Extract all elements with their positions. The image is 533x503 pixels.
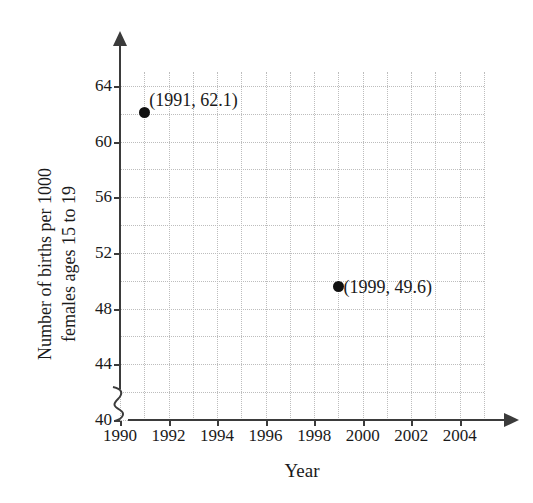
x-tick-label: 2004 — [430, 427, 490, 444]
gridline-horizontal — [120, 114, 484, 115]
gridline-vertical — [460, 72, 461, 420]
gridline-vertical — [484, 72, 485, 420]
gridline-vertical — [411, 72, 412, 420]
data-point-label: (1999, 49.6) — [343, 277, 432, 298]
x-tick-mark — [266, 421, 268, 426]
x-axis-title: Year — [120, 460, 484, 482]
gridline-horizontal — [120, 86, 484, 87]
gridline-vertical — [435, 72, 436, 420]
x-tick-mark — [314, 421, 316, 426]
x-tick-mark — [120, 421, 122, 426]
gridline-horizontal — [120, 392, 484, 393]
gridline-horizontal — [120, 142, 484, 143]
scatter-chart: 40444852566064 1990199219941996199820002… — [0, 0, 533, 503]
gridline-horizontal — [120, 309, 484, 310]
y-tick-label: 64 — [72, 77, 112, 94]
y-axis-line — [119, 44, 121, 389]
data-point — [333, 281, 344, 292]
gridline-vertical — [193, 72, 194, 420]
gridline-vertical — [338, 72, 339, 420]
y-tick-mark — [114, 86, 120, 88]
plot-area — [120, 72, 484, 420]
y-axis-title: Number of births per 1000 females ages 1… — [33, 114, 81, 414]
gridline-horizontal — [120, 253, 484, 254]
x-axis-line — [128, 419, 506, 421]
y-tick-mark — [114, 309, 120, 311]
gridline-vertical — [217, 72, 218, 420]
y-tick-mark — [114, 253, 120, 255]
y-tick-mark — [114, 197, 120, 199]
gridline-horizontal — [120, 336, 484, 337]
gridline-vertical — [290, 72, 291, 420]
x-tick-mark — [460, 421, 462, 426]
gridline-vertical — [241, 72, 242, 420]
gridline-horizontal — [120, 197, 484, 198]
gridline-horizontal — [120, 169, 484, 170]
y-axis-title-line-2: females ages 15 to 19 — [57, 114, 81, 414]
data-point — [139, 107, 150, 118]
x-tick-mark — [363, 421, 365, 426]
gridline-vertical — [266, 72, 267, 420]
y-tick-mark — [114, 142, 120, 144]
axis-break-icon — [110, 386, 132, 422]
gridline-horizontal — [120, 225, 484, 226]
gridline-vertical — [387, 72, 388, 420]
x-tick-mark — [169, 421, 171, 426]
gridline-vertical — [144, 72, 145, 420]
x-tick-mark — [411, 421, 413, 426]
x-axis-arrow-icon — [504, 413, 519, 427]
y-tick-mark — [114, 364, 120, 366]
gridline-vertical — [314, 72, 315, 420]
gridline-vertical — [169, 72, 170, 420]
gridline-vertical — [363, 72, 364, 420]
data-point-label: (1991, 62.1) — [149, 90, 238, 111]
y-axis-title-line-1: Number of births per 1000 — [33, 114, 57, 414]
y-axis-arrow-icon — [113, 31, 127, 46]
gridline-horizontal — [120, 364, 484, 365]
x-tick-mark — [217, 421, 219, 426]
